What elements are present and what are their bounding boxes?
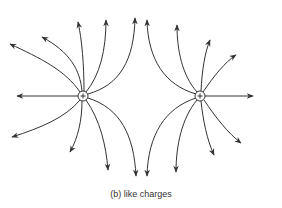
field-line <box>203 55 236 92</box>
field-line <box>201 101 214 155</box>
like-charges-field-diagram: (b) like charges <box>0 0 282 208</box>
field-line <box>177 25 197 92</box>
positive-charge-right <box>195 91 205 101</box>
field-line <box>10 44 80 92</box>
field-line <box>42 37 82 91</box>
field-line <box>147 20 196 94</box>
field-lines-svg <box>0 0 282 208</box>
positive-charge-left <box>78 91 88 101</box>
field-line <box>86 100 108 170</box>
field-line <box>147 98 196 176</box>
field-line <box>88 98 136 176</box>
field-line <box>78 22 84 91</box>
field-line <box>204 100 241 143</box>
field-line <box>86 20 106 92</box>
field-line <box>88 18 135 94</box>
field-line <box>12 100 80 137</box>
field-line <box>176 100 197 172</box>
figure-caption: (b) like charges <box>0 189 282 199</box>
